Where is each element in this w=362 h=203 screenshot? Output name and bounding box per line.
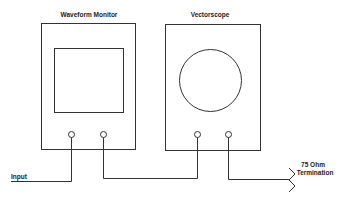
loop-through-cable [104,138,198,179]
vectorscope-case [166,25,261,151]
termination-label-line2: Termination [297,169,334,176]
input-label: Input [11,173,28,181]
termination: 75 Ohm Termination [229,138,334,193]
waveform-monitor: Waveform Monitor [42,11,136,150]
waveform-monitor-title: Waveform Monitor [61,11,118,18]
signal-routing-diagram: Waveform Monitor Vectorscope Input 75 Oh… [0,0,362,203]
vectorscope-connector-1 [195,132,201,138]
waveform-monitor-screen [55,49,124,113]
waveform-monitor-connector-2 [101,132,107,138]
vectorscope-screen [180,50,242,112]
waveform-monitor-case [42,24,136,150]
waveform-monitor-connector-1 [69,132,75,138]
termination-line [229,138,291,180]
vectorscope-title: Vectorscope [191,11,230,19]
vectorscope: Vectorscope [166,11,261,151]
termination-label-line1: 75 Ohm [301,161,325,168]
vectorscope-connector-2 [226,132,232,138]
